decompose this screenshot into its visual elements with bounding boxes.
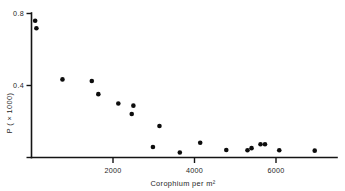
data-point <box>151 145 156 150</box>
x-tick-labels: 2000 4000 6000 <box>104 166 284 175</box>
y-axis-title: P ( × 1000) <box>5 93 14 134</box>
data-point <box>96 92 101 97</box>
x-axis-title: Corophium per m² <box>150 179 215 188</box>
axes-group <box>32 13 338 158</box>
data-point <box>312 148 317 153</box>
data-point <box>258 142 263 147</box>
x-tick-label-6000: 6000 <box>267 166 284 175</box>
data-point <box>277 148 282 153</box>
data-point <box>129 112 134 117</box>
data-point <box>33 18 38 23</box>
y-tick-label-top: 0.8 <box>13 9 24 18</box>
data-point <box>263 142 268 147</box>
scatter-plot-figure: 0.8 0.4 2000 4000 6000 Corophium per m² … <box>0 0 345 191</box>
data-point <box>60 77 65 82</box>
data-point <box>90 79 95 84</box>
data-point <box>249 146 254 151</box>
data-points-layer <box>33 18 317 154</box>
data-point <box>131 103 136 108</box>
y-tick-label-mid: 0.4 <box>13 81 24 90</box>
x-tick-label-2000: 2000 <box>104 166 121 175</box>
data-point <box>157 124 162 129</box>
data-point <box>116 101 121 106</box>
data-point <box>178 150 183 155</box>
data-point <box>245 148 250 153</box>
data-point <box>34 26 39 31</box>
x-tick-marks <box>113 158 276 164</box>
chart-canvas: 0.8 0.4 2000 4000 6000 Corophium per m² … <box>0 0 345 191</box>
y-tick-labels: 0.8 0.4 <box>13 9 24 90</box>
data-point <box>224 148 229 153</box>
x-tick-label-4000: 4000 <box>186 166 203 175</box>
data-point <box>198 140 203 145</box>
